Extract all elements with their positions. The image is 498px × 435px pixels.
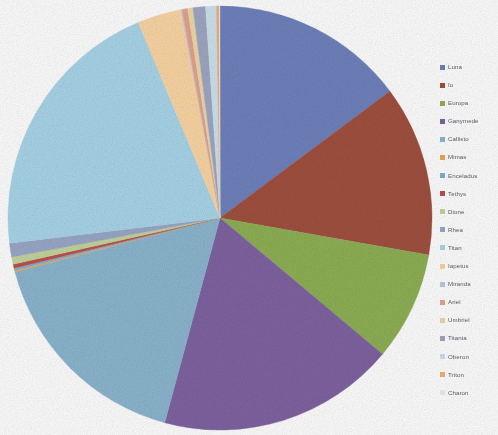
legend-item-label: Io (448, 76, 453, 94)
legend-swatch-icon (440, 155, 445, 160)
legend-item-rhea[interactable]: Rhea (440, 221, 498, 239)
legend-item-enceladus[interactable]: Enceladus (440, 167, 498, 185)
legend-swatch-icon (440, 245, 445, 250)
legend-item-label: Tethys (448, 185, 466, 203)
legend-swatch-icon (440, 227, 445, 232)
legend-item-charon[interactable]: Charon (440, 384, 498, 402)
legend-swatch-icon (440, 173, 445, 178)
legend-swatch-icon (440, 354, 445, 359)
legend-swatch-icon (440, 119, 445, 124)
legend-item-titan[interactable]: Titan (440, 239, 498, 257)
pie-slice-group (8, 6, 432, 430)
legend-item-label: Europa (448, 94, 468, 112)
legend-item-triton[interactable]: Triton (440, 366, 498, 384)
legend-item-label: Triton (448, 366, 464, 384)
legend-item-ganymede[interactable]: Ganymede (440, 112, 498, 130)
legend-swatch-icon (440, 336, 445, 341)
legend-item-label: Oberon (448, 348, 469, 366)
legend-item-titania[interactable]: Titania (440, 329, 498, 347)
legend-item-dione[interactable]: Dione (440, 203, 498, 221)
legend-item-label: Callisto (448, 130, 469, 148)
legend-swatch-icon (440, 318, 445, 323)
legend-item-miranda[interactable]: Miranda (440, 275, 498, 293)
chart-legend: LunaIoEuropaGanymedeCallistoMimasEncelad… (440, 0, 498, 435)
legend-swatch-icon (440, 282, 445, 287)
legend-swatch-icon (440, 390, 445, 395)
legend-swatch-icon (440, 83, 445, 88)
legend-item-label: Titan (448, 239, 462, 257)
legend-swatch-icon (440, 209, 445, 214)
legend-item-label: Mimas (448, 148, 466, 166)
legend-item-tethys[interactable]: Tethys (440, 185, 498, 203)
legend-item-iapetus[interactable]: Iapetus (440, 257, 498, 275)
legend-item-luna[interactable]: Luna (440, 58, 498, 76)
legend-swatch-icon (440, 137, 445, 142)
legend-item-europa[interactable]: Europa (440, 94, 498, 112)
legend-item-label: Luna (448, 58, 462, 76)
legend-item-label: Dione (448, 203, 464, 221)
legend-swatch-icon (440, 264, 445, 269)
legend-item-umbriel[interactable]: Umbriel (440, 311, 498, 329)
legend-item-label: Rhea (448, 221, 463, 239)
legend-item-label: Iapetus (448, 257, 469, 275)
legend-item-label: Umbriel (448, 311, 470, 329)
legend-item-label: Charon (448, 384, 469, 402)
legend-item-callisto[interactable]: Callisto (440, 130, 498, 148)
legend-item-label: Miranda (448, 275, 471, 293)
legend-item-ariel[interactable]: Ariel (440, 293, 498, 311)
legend-item-mimas[interactable]: Mimas (440, 148, 498, 166)
legend-swatch-icon (440, 101, 445, 106)
legend-swatch-icon (440, 191, 445, 196)
legend-item-oberon[interactable]: Oberon (440, 348, 498, 366)
pie-svg (0, 0, 440, 435)
legend-item-label: Ganymede (448, 112, 479, 130)
pie-chart-figure: LunaIoEuropaGanymedeCallistoMimasEncelad… (0, 0, 498, 435)
legend-swatch-icon (440, 300, 445, 305)
legend-item-io[interactable]: Io (440, 76, 498, 94)
legend-item-label: Ariel (448, 293, 461, 311)
legend-item-label: Titania (448, 329, 467, 347)
legend-swatch-icon (440, 372, 445, 377)
legend-swatch-icon (440, 65, 445, 70)
pie-plot-area (0, 0, 440, 435)
legend-item-label: Enceladus (448, 167, 477, 185)
